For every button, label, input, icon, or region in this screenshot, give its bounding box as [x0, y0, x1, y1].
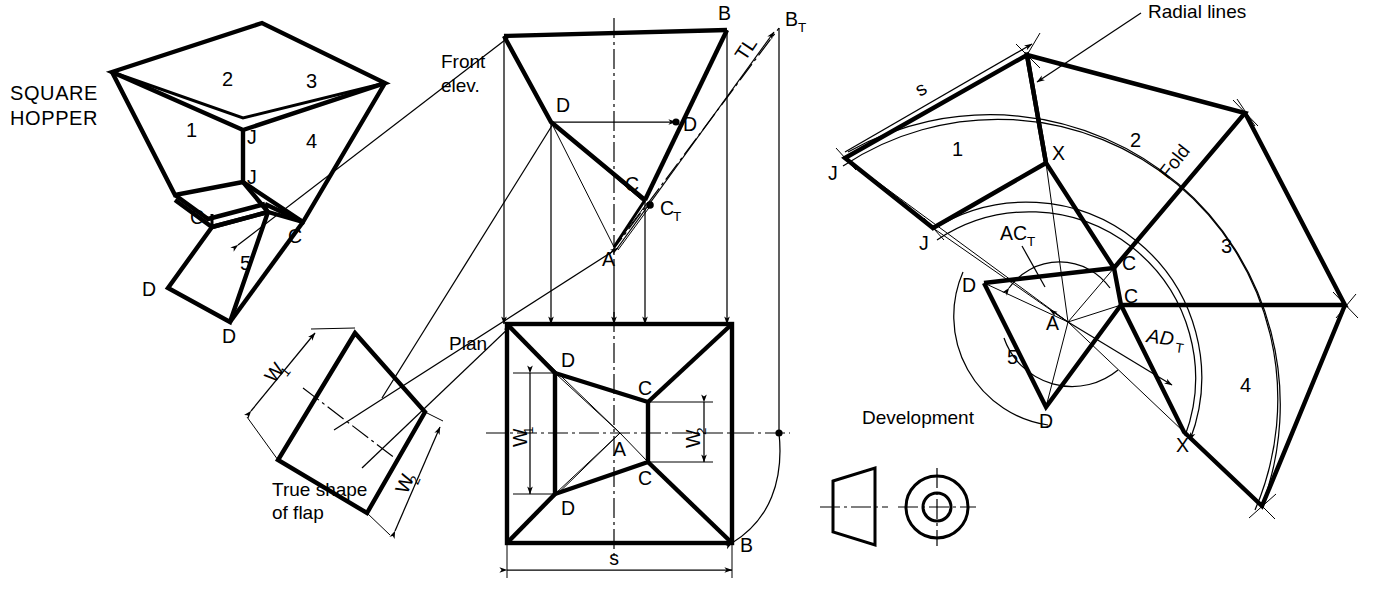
fe-construction-a-ct	[618, 205, 651, 250]
fe-label-ct: C	[660, 197, 674, 219]
fe-label-d-left: D	[556, 94, 570, 116]
dev-ac-true-leader	[1022, 246, 1045, 287]
dev-mid-arc-secondary	[937, 212, 1196, 436]
plan-label-c-top: C	[638, 377, 652, 399]
pictorial-label-d-bottom: D	[222, 325, 236, 347]
dev-panel-label-1: 1	[952, 138, 963, 160]
fe-label-c: C	[625, 173, 639, 195]
transfer-line-lower-a	[382, 124, 553, 398]
fe-label-true-length: TL	[730, 33, 761, 64]
dev-ad-true-label: AD	[1144, 324, 1175, 350]
pictorial-panel-label-2: 2	[222, 68, 233, 90]
dev-label-d-left: D	[962, 274, 976, 296]
dev-panel-label-5: 5	[1007, 346, 1018, 368]
dev-arc-small-lower	[1004, 338, 1118, 387]
fe-caption-line2: elev.	[441, 75, 480, 96]
plan-label-c-bottom: C	[638, 467, 652, 489]
fe-caption-line1: Front	[441, 51, 486, 72]
pictorial-label-j-bottom: J	[247, 166, 257, 188]
pictorial-panel-label-3: 3	[306, 70, 317, 92]
dev-outer-arc	[848, 115, 1280, 506]
flap-centreline	[303, 388, 400, 462]
plan-dim-s-label: s	[609, 547, 619, 569]
pictorial-panel-label-1: 1	[186, 119, 197, 141]
dev-label-j-outer: J	[828, 162, 838, 184]
pictorial-panel-label-5: 5	[240, 252, 251, 274]
dev-panel-5-top-edge	[984, 268, 1114, 283]
dev-fold-label: Fold	[1155, 140, 1194, 182]
dev-label-a: A	[1046, 312, 1059, 334]
flap-dim-w2-ext-bottom	[367, 513, 390, 535]
hopper-panel-4-edges	[243, 83, 385, 222]
dev-ac-true-sub: T	[1027, 234, 1035, 249]
dev-label-x-top: X	[1052, 142, 1065, 164]
fe-label-bt-sub: T	[798, 20, 806, 35]
dev-outer-arc-secondary	[843, 119, 1278, 510]
front-elevation-view: Front elev. B B T TL D D C C T A	[441, 2, 806, 324]
dev-panel-label-3: 3	[1221, 235, 1232, 257]
plan-label-b: B	[740, 534, 753, 556]
dev-dim-s-ext	[1027, 33, 1040, 55]
dev-radial-to-x-top	[1046, 163, 1068, 322]
fe-label-bt: B	[785, 8, 798, 30]
pictorial-caption-line2: HOPPER	[10, 107, 98, 129]
flap-dim-w2-ext-top	[425, 412, 443, 421]
fe-construction-d-a	[551, 122, 614, 247]
pictorial-panel-label-4: 4	[306, 130, 317, 152]
plan-label-a: A	[613, 438, 626, 460]
fe-label-ct-sub: T	[673, 209, 681, 224]
fe-label-d-right: D	[683, 113, 697, 135]
dev-ac-true-label: AC	[1000, 222, 1027, 244]
dev-radial-lines-label: Radial lines	[1148, 1, 1246, 22]
pictorial-label-j-top: J	[247, 126, 257, 148]
flap-dim-w1-ext-top	[311, 328, 355, 329]
fe-label-a: A	[602, 248, 615, 270]
fe-corner-to-a	[614, 200, 645, 247]
plan-label-d-bottom: D	[561, 497, 575, 519]
pictorial-view: SQUARE HOPPER 2 3 1 4 5 J J C C D D	[10, 23, 385, 347]
drawing-sheet: SQUARE HOPPER 2 3 1 4 5 J J C C D D W 1	[0, 0, 1377, 597]
plan-label-d-top: D	[561, 349, 575, 371]
fe-top-edge	[504, 30, 727, 36]
dev-label-d-bottom: D	[1039, 410, 1053, 432]
hopper-top-rim	[112, 23, 385, 130]
plan-caption: Plan	[449, 333, 487, 354]
flap-dim-w1-ext-bottom	[247, 417, 278, 460]
dev-panel-label-2: 2	[1130, 129, 1141, 151]
plan-fold-tr	[648, 324, 732, 402]
dev-radial-to-c-upper	[1068, 268, 1114, 322]
plan-dim-w2-sub: 2	[694, 427, 709, 435]
fe-label-b: B	[718, 2, 731, 24]
dev-panel-5-outline	[984, 283, 1121, 407]
plan-dim-w1-sub: 1	[521, 426, 536, 434]
fe-left-slope	[504, 36, 645, 200]
pictorial-label-c-left: C	[190, 206, 204, 228]
flap-caption-line1: True shape	[272, 479, 367, 500]
dev-caption: Development	[862, 407, 975, 428]
dev-label-j-inner: J	[919, 232, 929, 254]
pictorial-caption-line1: SQUARE	[10, 82, 98, 104]
dev-label-x-bottom: X	[1176, 434, 1189, 456]
pictorial-label-c-right: C	[288, 225, 302, 247]
plan-rotation-arc	[732, 433, 780, 543]
plan-view: W 1 W 2 s Plan D D C C A B	[449, 200, 790, 578]
hopper-panel-1-edges	[112, 72, 243, 195]
plan-fold-br	[648, 462, 732, 543]
dev-fold-line-c-c	[1114, 268, 1121, 305]
dev-dim-s-line	[845, 44, 1032, 152]
true-shape-of-flap-view: W 1 W 2 True shape of flap	[247, 328, 443, 535]
development-view: s Radial lines Fold AC T AD T 1 2 3 4 5 …	[828, 1, 1358, 519]
dev-fold-line-x	[1027, 55, 1046, 163]
fe-true-length-arrow	[616, 32, 774, 250]
technical-drawing-canvas: SQUARE HOPPER 2 3 1 4 5 J J C C D D W 1	[0, 0, 1377, 597]
dev-label-c-upper: C	[1122, 252, 1136, 274]
dev-panel-3-outline	[1114, 113, 1345, 305]
dev-ad-true-sub: T	[1174, 340, 1184, 356]
pictorial-label-d-left: D	[142, 278, 156, 300]
flap-caption-line2: of flap	[272, 502, 324, 523]
dev-panel-label-4: 4	[1240, 374, 1251, 396]
dev-label-c-lower: C	[1124, 285, 1138, 307]
fe-construction-a-c	[614, 202, 648, 247]
dev-dim-s-label: s	[911, 76, 931, 100]
fe-ct-point	[646, 201, 654, 209]
